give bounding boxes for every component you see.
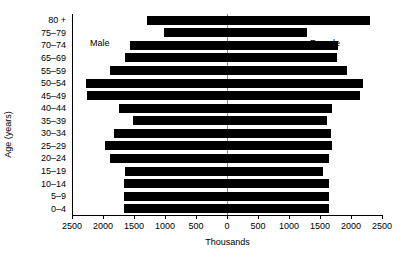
y-axis-tick-label: 45–49: [41, 90, 66, 102]
y-axis-tick-label: 35–39: [41, 115, 66, 127]
bar-female: [227, 104, 332, 113]
bar-male: [164, 28, 227, 37]
bar-female: [227, 28, 307, 37]
bar-female: [227, 154, 329, 163]
bar-male: [125, 53, 227, 62]
bar-male: [86, 79, 227, 88]
bar-row: [72, 104, 383, 116]
bar-row: [72, 116, 383, 128]
x-axis-title: Thousands: [72, 236, 383, 248]
bar-row: [72, 154, 383, 166]
x-axis-tick: [258, 215, 259, 219]
x-axis-tick: [382, 215, 383, 219]
bar-female: [227, 79, 363, 88]
bar-row: [72, 129, 383, 141]
bar-row: [72, 28, 383, 40]
bar-male: [130, 41, 227, 50]
bar-row: [72, 66, 383, 78]
bar-male: [133, 116, 227, 125]
bar-male: [105, 141, 227, 150]
bar-female: [227, 167, 323, 176]
bar-row: [72, 79, 383, 91]
y-axis-tick-label: 5–9: [51, 190, 66, 202]
bar-male: [147, 16, 227, 25]
bar-male: [124, 204, 227, 213]
x-axis-tick: [351, 215, 352, 219]
x-axis-tick: [196, 215, 197, 219]
bar-row: [72, 41, 383, 53]
y-axis-tick-label: 25–29: [41, 140, 66, 152]
bar-female: [227, 192, 329, 201]
y-axis-tick-label: 20–24: [41, 152, 66, 164]
y-axis-tick-label: 55–59: [41, 65, 66, 77]
bar-female: [227, 66, 347, 75]
y-axis-tick-label: 65–69: [41, 52, 66, 64]
bar-male: [114, 129, 227, 138]
x-axis-tick-label: 2500: [362, 221, 402, 232]
x-axis-tick: [134, 215, 135, 219]
y-axis-tick-label: 50–54: [41, 77, 66, 89]
bar-female: [227, 91, 360, 100]
y-axis-tick-label: 75–79: [41, 27, 66, 39]
bar-male: [119, 104, 228, 113]
y-axis-tick-labels: 80 +75–7970–7465–6955–5950–5445–4940–443…: [16, 14, 70, 215]
bar-female: [227, 53, 337, 62]
bar-male: [110, 154, 227, 163]
y-axis-tick-label: 10–14: [41, 178, 66, 190]
y-axis-tick-label: 40–44: [41, 102, 66, 114]
bar-row: [72, 179, 383, 191]
bar-male: [110, 66, 227, 75]
bar-row: [72, 91, 383, 103]
x-axis-tick: [103, 215, 104, 219]
bar-female: [227, 41, 338, 50]
y-axis-tick-label: 80 +: [48, 14, 66, 26]
bar-female: [227, 204, 329, 213]
y-axis-tick-label: 0–4: [51, 203, 66, 215]
bar-male: [124, 192, 227, 201]
x-axis-tick: [320, 215, 321, 219]
bar-female: [227, 16, 370, 25]
bar-female: [227, 116, 327, 125]
bar-male: [124, 179, 227, 188]
x-axis-tick: [289, 215, 290, 219]
bar-male: [87, 91, 227, 100]
population-pyramid-chart: Age (years) 80 +75–7970–7465–6955–5950–5…: [0, 0, 415, 269]
bar-row: [72, 53, 383, 65]
y-axis-tick-label: 30–34: [41, 127, 66, 139]
x-axis-tick: [72, 215, 73, 219]
y-axis-tick-label: 15–19: [41, 165, 66, 177]
bar-row: [72, 141, 383, 153]
y-axis-title: Age (years): [0, 0, 16, 269]
plot-area: Male Female: [72, 14, 383, 215]
x-axis-tick: [227, 215, 228, 219]
bar-row: [72, 16, 383, 28]
y-axis-tick-label: 70–74: [41, 39, 66, 51]
bar-female: [227, 129, 331, 138]
bar-female: [227, 179, 329, 188]
x-axis-tick: [165, 215, 166, 219]
bar-row: [72, 192, 383, 204]
bar-male: [125, 167, 227, 176]
bar-female: [227, 141, 332, 150]
bar-row: [72, 167, 383, 179]
